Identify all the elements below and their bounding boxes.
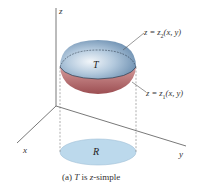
region-r-label: R [93,147,99,157]
z-simple-figure: z x y T R z = z2(x, y) z = z1(x, y) (a) … [0,0,199,193]
z-axis-label: z [59,7,63,16]
figure-caption: (a) T is z-simple [62,173,120,182]
upper-surface-leader [123,33,144,50]
upper-surface-equation: z = z2(x, y) [144,28,181,39]
caption-is: is [79,172,90,182]
solid-t-label: T [93,60,99,70]
caption-tag: (a) [62,172,74,182]
lower-eq-prefix: z = z [146,88,163,98]
y-axis [56,106,186,146]
upper-eq-prefix: z = z [144,27,161,37]
y-axis-label: y [179,150,183,159]
lower-eq-args: (x, y) [166,88,183,98]
x-axis-label: x [23,146,27,155]
upper-eq-args: (x, y) [164,27,181,37]
lower-surface-equation: z = z1(x, y) [146,89,183,100]
caption-simple: -simple [93,172,120,182]
lower-surface-leader [132,82,146,92]
x-axis [17,106,56,143]
